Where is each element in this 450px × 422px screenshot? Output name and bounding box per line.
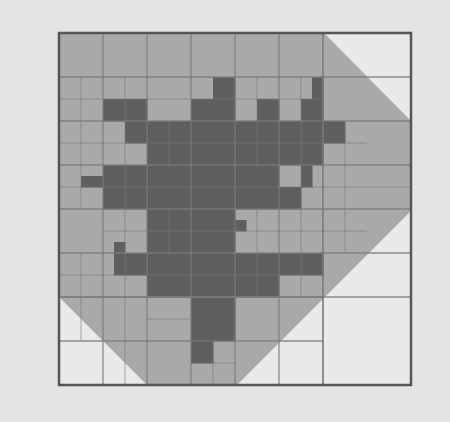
blob-subcell <box>114 242 126 254</box>
blob-cell <box>257 121 280 144</box>
blob-cell <box>213 297 236 320</box>
blob-cell <box>169 231 192 254</box>
blob-cell <box>257 165 280 188</box>
blob-cell <box>323 121 346 144</box>
blob-cell <box>147 231 170 254</box>
blob-cell <box>235 143 258 166</box>
blob-cell <box>191 209 214 232</box>
blob-cell <box>147 187 170 210</box>
blob-cell <box>191 297 214 320</box>
quadtree-figure <box>0 0 450 422</box>
blob-cell <box>191 319 214 342</box>
blob-cell <box>191 143 214 166</box>
blob-cell <box>235 121 258 144</box>
blob-subcell <box>114 253 126 276</box>
blob-cell <box>279 143 302 166</box>
blob-cell <box>169 187 192 210</box>
blob-subcell <box>301 165 313 188</box>
quadtree-diagram <box>0 0 450 422</box>
blob-cell <box>213 121 236 144</box>
blob-cell <box>279 187 302 210</box>
blob-cell <box>213 275 236 298</box>
blob-cell <box>213 253 236 276</box>
blob-cell <box>125 165 148 188</box>
blob-cell <box>257 275 280 298</box>
blob-cell <box>257 143 280 166</box>
blob-cell <box>169 121 192 144</box>
blob-subcell <box>235 220 247 232</box>
blob-cell <box>257 99 280 122</box>
blob-cell <box>191 99 214 122</box>
blob-cell <box>235 275 258 298</box>
blob-cell <box>301 143 324 166</box>
blob-cell <box>191 231 214 254</box>
blob-cell <box>279 121 302 144</box>
blob-cell <box>301 99 324 122</box>
blob-cell <box>235 165 258 188</box>
blob-cell <box>191 187 214 210</box>
blob-cell <box>213 99 236 122</box>
blob-cell <box>169 165 192 188</box>
blob-cell <box>279 253 302 276</box>
blob-cell <box>213 231 236 254</box>
blob-cell <box>257 253 280 276</box>
blob-cell <box>125 99 148 122</box>
blob-cell <box>213 77 236 100</box>
blob-cell <box>169 209 192 232</box>
blob-cell <box>125 253 148 276</box>
blob-cell <box>213 209 236 232</box>
blob-subcell <box>312 77 324 100</box>
blob-cell <box>103 165 126 188</box>
blob-cell <box>213 143 236 166</box>
blob-cell <box>147 165 170 188</box>
blob-cell <box>191 275 214 298</box>
blob-cell <box>191 253 214 276</box>
blob-cell <box>191 121 214 144</box>
blob-cell <box>191 341 214 364</box>
blob-cell <box>147 275 170 298</box>
blob-cell <box>125 187 148 210</box>
blob-subcell <box>81 176 104 188</box>
blob-cell <box>125 121 148 144</box>
blob-cell <box>257 187 280 210</box>
blob-cell <box>147 253 170 276</box>
blob-cell <box>191 165 214 188</box>
blob-cell <box>169 253 192 276</box>
blob-cell <box>213 319 236 342</box>
blob-cell <box>235 253 258 276</box>
blob-cell <box>301 253 324 276</box>
blob-cell <box>169 143 192 166</box>
blob-cell <box>235 187 258 210</box>
blob-cell <box>147 121 170 144</box>
blob-cell <box>213 165 236 188</box>
blob-cell <box>103 187 126 210</box>
blob-cell <box>147 209 170 232</box>
blob-cell <box>301 121 324 144</box>
blob-cell <box>103 99 126 122</box>
blob-cell <box>213 187 236 210</box>
blob-cell <box>169 275 192 298</box>
blob-cell <box>147 143 170 166</box>
